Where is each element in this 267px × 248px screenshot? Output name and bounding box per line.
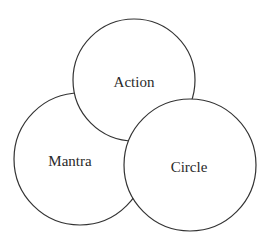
circle-node: Circle: [124, 99, 256, 231]
mantra-label: Mantra: [48, 153, 92, 169]
action-label: Action: [114, 74, 155, 90]
venn-diagram: Mantra Action Circle: [0, 0, 267, 248]
circle-label: Circle: [171, 159, 208, 175]
